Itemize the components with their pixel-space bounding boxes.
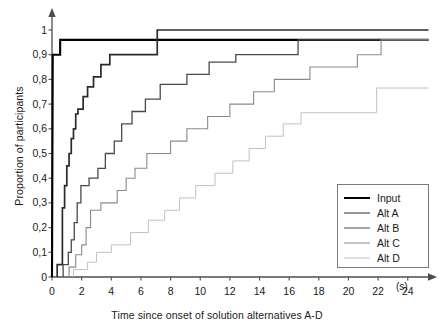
y-axis-title: Proportion of participants	[13, 41, 25, 251]
x-tick-label: 20	[333, 285, 363, 297]
legend-line-swatch	[344, 253, 370, 263]
legend-item-alt-a[interactable]: Alt A	[338, 205, 428, 220]
x-axis-title: Time since onset of solution alternative…	[52, 309, 382, 321]
x-tick-labels: 024681012141618202224	[0, 0, 447, 330]
legend-item-alt-d[interactable]: Alt D	[338, 250, 428, 265]
x-tick-label: 22	[363, 285, 393, 297]
chart-figure: 00,10,20,30,40,50,60,70,80,91 0246810121…	[0, 0, 447, 330]
x-tick-label: 14	[245, 285, 275, 297]
x-tick-label: 8	[156, 285, 186, 297]
legend-item-alt-b[interactable]: Alt B	[338, 220, 428, 235]
legend-line-swatch	[344, 238, 370, 248]
x-tick-label: 0	[37, 285, 67, 297]
x-tick-label: 10	[185, 285, 215, 297]
x-tick-label: 6	[126, 285, 156, 297]
legend-line-swatch	[344, 193, 370, 203]
legend-line-swatch	[344, 223, 370, 233]
legend-item-label: Alt C	[370, 237, 400, 249]
x-tick-label: 2	[67, 285, 97, 297]
legend-item-label: Alt B	[370, 222, 399, 234]
x-axis-unit-label: (s)	[396, 281, 408, 292]
legend-item-label: Input	[370, 192, 400, 204]
x-tick-label: 12	[215, 285, 245, 297]
legend-item-alt-c[interactable]: Alt C	[338, 235, 428, 250]
x-tick-label: 16	[274, 285, 304, 297]
legend-box: InputAlt AAlt BAlt CAlt D	[337, 184, 429, 268]
x-tick-label: 18	[304, 285, 334, 297]
legend-item-label: Alt D	[370, 252, 400, 264]
legend-line-swatch	[344, 208, 370, 218]
x-tick-label: 4	[96, 285, 126, 297]
legend-item-label: Alt A	[370, 207, 399, 219]
legend-item-input[interactable]: Input	[338, 190, 428, 205]
